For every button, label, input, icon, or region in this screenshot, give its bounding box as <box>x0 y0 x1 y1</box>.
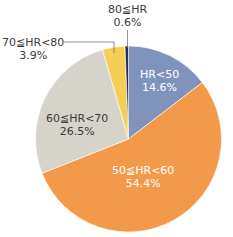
label-70-80-value: 3.9% <box>2 49 64 62</box>
label-70-80: 70≦HR<80 3.9% <box>2 36 64 62</box>
label-60-70-value: 26.5% <box>46 125 108 138</box>
label-60-70-name: 60≦HR<70 <box>46 112 108 125</box>
label-80-plus-name: 80≦HR <box>108 3 147 16</box>
label-80-plus-value: 0.6% <box>108 16 147 29</box>
label-50-60-name: 50≦HR<60 <box>112 164 174 177</box>
label-50-60: 50≦HR<60 54.4% <box>112 164 174 190</box>
label-70-80-name: 70≦HR<80 <box>2 36 64 49</box>
label-under-50: HR<50 14.6% <box>140 68 179 94</box>
label-50-60-value: 54.4% <box>112 177 174 190</box>
label-under-50-name: HR<50 <box>140 68 179 81</box>
label-60-70: 60≦HR<70 26.5% <box>46 112 108 138</box>
label-80-plus: 80≦HR 0.6% <box>108 3 147 29</box>
label-under-50-value: 14.6% <box>140 81 179 94</box>
